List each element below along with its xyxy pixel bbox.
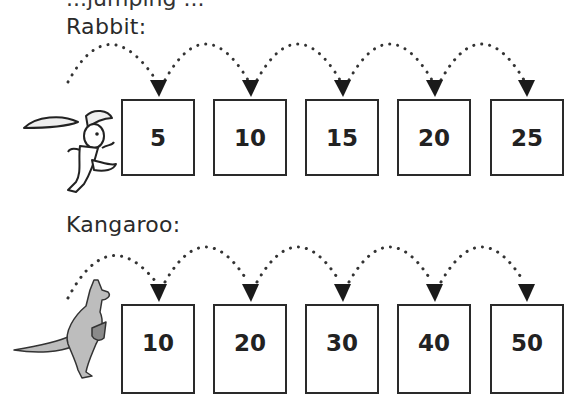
- arrow-down-icon: [334, 284, 351, 302]
- kangaroo-box-5: 50: [490, 304, 564, 394]
- kangaroo-box-4: 40: [397, 304, 471, 394]
- rabbit-icon: [18, 88, 118, 194]
- kangaroo-arc-3: [257, 247, 340, 282]
- kangaroo-label: Kangaroo:: [66, 212, 181, 237]
- rabbit-arc-2: [165, 44, 248, 80]
- arrow-down-icon: [242, 80, 259, 97]
- arrow-down-icon: [518, 80, 535, 97]
- rabbit-box-1: 5: [121, 99, 195, 176]
- kangaroo-arc-5: [441, 247, 524, 282]
- kangaroo-box-3: 30: [305, 304, 379, 394]
- kangaroo-icon: [12, 276, 112, 380]
- arrow-down-icon: [150, 80, 167, 97]
- arrow-down-icon: [242, 284, 259, 302]
- rabbit-arc-5: [441, 44, 524, 80]
- arrow-down-icon: [426, 284, 443, 302]
- rabbit-box-4: 20: [397, 99, 471, 176]
- rabbit-arc-3: [257, 44, 340, 80]
- arrow-down-icon: [426, 80, 443, 97]
- rabbit-arc-1: [68, 44, 156, 82]
- kangaroo-arc-2: [165, 247, 248, 282]
- kangaroo-box-2: 20: [213, 304, 287, 394]
- kangaroo-arc-4: [349, 247, 432, 282]
- rabbit-box-5: 25: [490, 99, 564, 176]
- kangaroo-box-1: 10: [121, 304, 195, 394]
- arrow-down-icon: [150, 284, 167, 302]
- rabbit-arc-4: [349, 44, 432, 80]
- rabbit-box-2: 10: [213, 99, 287, 176]
- rabbit-box-3: 15: [305, 99, 379, 176]
- arrow-down-icon: [334, 80, 351, 97]
- arrow-down-icon: [518, 284, 535, 302]
